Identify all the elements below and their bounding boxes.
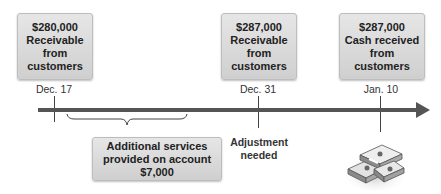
event-label-line: Cash received [340,34,424,47]
event-label-line: from [222,47,296,60]
event-label-line: from [340,47,424,60]
brace-icon [66,112,188,128]
event-label-line: from [18,47,92,60]
adjustment-note: Adjustment needed [226,136,292,162]
event-amount: $287,000 [340,21,424,34]
event-label-line: Receivable [18,34,92,47]
event-box-jan10: $287,000 Cash received from customers [339,13,425,80]
event-label-line: Receivable [222,34,296,47]
cash-stack-icon [340,135,410,193]
tick-dec31 [258,96,259,128]
event-label-line: customers [222,60,296,73]
event-box-dec31: $287,000 Receivable from customers [221,13,297,80]
event-amount: $280,000 [18,21,92,34]
event-amount: $287,000 [222,21,296,34]
period-amount: $7,000 [93,166,221,179]
date-label-dec31: Dec. 31 [228,83,288,95]
period-label-line: provided on account [93,153,221,166]
tick-jan10 [380,96,381,132]
period-box: Additional services provided on account … [92,137,222,181]
event-label-line: customers [18,60,92,73]
date-label-dec17: Dec. 17 [24,83,84,95]
event-label-line: customers [340,60,424,73]
date-label-jan10: Jan. 10 [351,83,411,95]
adjustment-note-line: Adjustment [226,136,292,149]
period-label-line: Additional services [93,140,221,153]
arrow-right-icon [416,102,430,118]
adjustment-note-line: needed [226,149,292,162]
event-box-dec17: $280,000 Receivable from customers [17,13,93,80]
